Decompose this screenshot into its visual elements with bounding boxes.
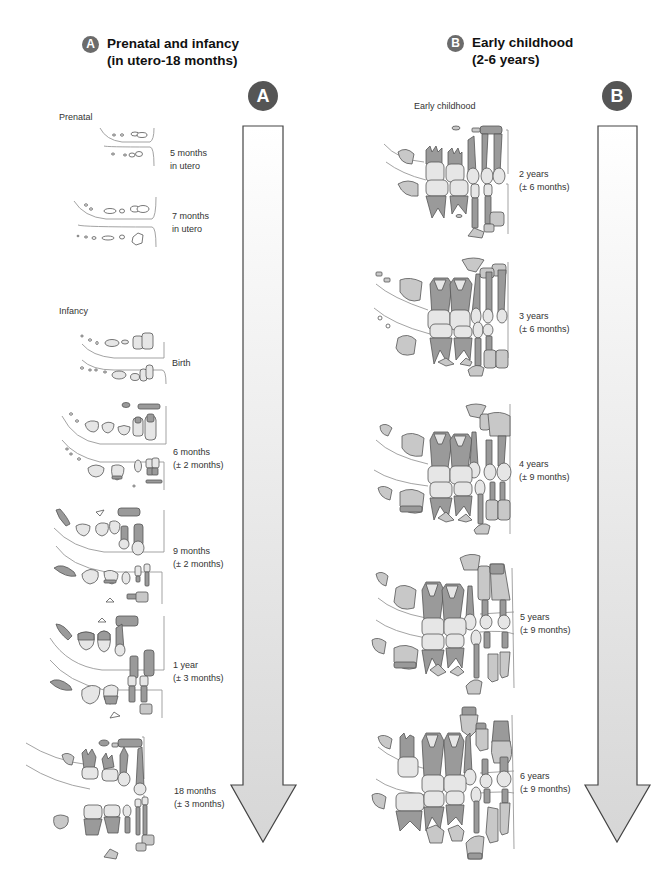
section-a-badge: A	[82, 36, 99, 53]
dentition-illustration	[372, 254, 514, 376]
section-b-title-line1: Early childhood	[472, 34, 573, 51]
section-a-header: A Prenatal and infancy (in utero-18 mont…	[82, 35, 239, 69]
dentition-illustration	[372, 396, 514, 536]
stage-label: 6 months (± 2 months)	[173, 446, 223, 472]
down-arrow-icon	[583, 124, 655, 846]
stage-label: 5 months in utero	[170, 147, 207, 173]
arrow-a-badge: A	[248, 81, 278, 111]
group-label-prenatal: Prenatal	[59, 112, 93, 122]
dentition-illustration	[78, 330, 168, 386]
section-a-title-line2: (in utero-18 months)	[107, 52, 239, 69]
arrow-b-badge: B	[602, 81, 632, 111]
section-b-title-line2: (2-6 years)	[472, 51, 573, 68]
stage-label: 2 years (± 6 months)	[519, 168, 569, 194]
section-b-badge: B	[447, 35, 464, 52]
section-a-title-line1: Prenatal and infancy	[107, 35, 239, 52]
stage-label: 6 years (± 9 months)	[520, 770, 570, 796]
group-label-infancy: Infancy	[59, 306, 88, 316]
stage-label: 3 years (± 6 months)	[519, 310, 569, 336]
stage-label: 18 months (± 3 months)	[174, 785, 224, 811]
dentition-illustration	[52, 504, 168, 604]
stage-label: 1 year (± 3 months)	[173, 659, 223, 685]
stage-label: Birth	[172, 357, 191, 370]
section-b-title: Early childhood (2-6 years)	[472, 34, 573, 68]
stage-label: 9 months (± 2 months)	[173, 545, 223, 571]
stage-label: 7 months in utero	[172, 210, 209, 236]
dentition-illustration	[98, 126, 160, 174]
dentition-illustration	[60, 400, 170, 490]
dentition-illustration	[364, 548, 516, 696]
stage-label: 4 years (± 9 months)	[519, 458, 569, 484]
group-label-early-childhood: Early childhood	[414, 101, 476, 111]
dentition-illustration	[72, 195, 160, 251]
section-a-title: Prenatal and infancy (in utero-18 months…	[107, 35, 239, 69]
dentition-illustration	[364, 703, 516, 863]
dentition-illustration	[24, 735, 168, 860]
section-b-header: B Early childhood (2-6 years)	[447, 34, 573, 68]
stage-label: 5 years (± 9 months)	[520, 611, 570, 637]
down-arrow-icon	[228, 124, 300, 846]
dentition-illustration	[48, 610, 168, 720]
dentition-illustration	[384, 124, 514, 234]
